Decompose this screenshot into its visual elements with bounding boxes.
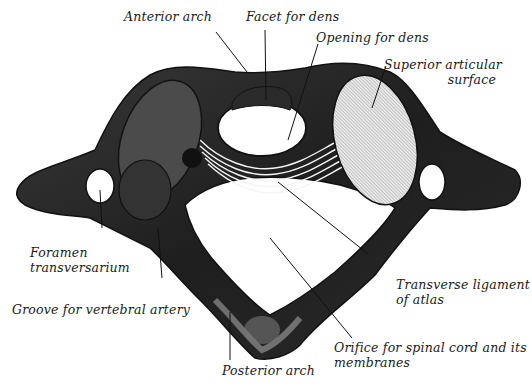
label-transverse-ligament-of-atlas: Transverse ligament of atlas	[396, 277, 530, 307]
label-text: of atlas	[396, 292, 530, 307]
label-facet-for-dens: Facet for dens	[246, 9, 339, 24]
label-text: membranes	[334, 355, 527, 370]
label-anterior-arch: Anterior arch	[124, 9, 212, 24]
label-superior-articular-surface: Superior articular surface	[384, 57, 496, 87]
label-text: Superior articular	[384, 57, 496, 72]
label-text: Opening for dens	[316, 30, 429, 45]
label-orifice-for-spinal-cord: Orifice for spinal cord and its membrane…	[334, 340, 527, 370]
atlas-vertebra-diagram: Anterior arch Facet for dens Opening for…	[0, 0, 532, 386]
label-text: Anterior arch	[124, 9, 212, 24]
label-text: surface	[384, 72, 496, 87]
label-text: transversarium	[30, 260, 130, 275]
label-text: Facet for dens	[246, 9, 339, 24]
label-posterior-arch: Posterior arch	[222, 363, 315, 378]
label-text: Foramen	[30, 245, 130, 260]
label-foramen-transversarium: Foramen transversarium	[30, 245, 130, 275]
label-text: Groove for vertebral artery	[12, 302, 190, 317]
right-foramen-transversarium	[419, 164, 445, 200]
label-text: Posterior arch	[222, 363, 315, 378]
label-text: Orifice for spinal cord and its	[334, 340, 527, 355]
label-text: Transverse ligament	[396, 277, 530, 292]
label-groove-for-vertebral-artery: Groove for vertebral artery	[12, 302, 190, 317]
opening-for-dens	[218, 100, 306, 156]
label-opening-for-dens: Opening for dens	[316, 30, 429, 45]
